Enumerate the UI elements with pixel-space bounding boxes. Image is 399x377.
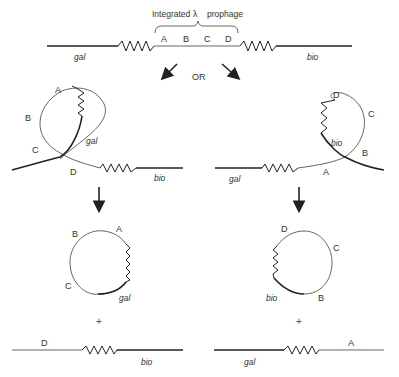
att-left-zigzag bbox=[118, 41, 154, 51]
left-loop-intermediate: A B C D gal bio bbox=[12, 85, 183, 183]
right-loop-b: B bbox=[362, 148, 368, 158]
left-plus: + bbox=[96, 316, 102, 327]
left-loop-d: D bbox=[70, 167, 77, 177]
site-c-label: C bbox=[204, 34, 211, 44]
right-plus: + bbox=[296, 316, 302, 327]
left-circle-gal-label: gal bbox=[119, 293, 131, 303]
left-loop-zigzag-d bbox=[100, 164, 136, 172]
left-linear-d: D bbox=[41, 338, 48, 348]
site-d-label: D bbox=[225, 34, 232, 44]
left-circle-phage bbox=[70, 231, 126, 294]
right-linear-gal-label: gal bbox=[244, 357, 256, 367]
right-circle-zigzag bbox=[273, 246, 278, 278]
left-loop-zigzag-a bbox=[72, 86, 84, 116]
lambda-symbol: λ bbox=[193, 9, 198, 19]
right-loop-zigzag-a bbox=[262, 164, 298, 172]
left-linear-product: D bio bbox=[12, 338, 183, 367]
right-circle: D C B bio bbox=[266, 224, 340, 303]
att-right-zigzag bbox=[240, 41, 276, 51]
bio-label: bio bbox=[307, 52, 319, 62]
right-linear-zigzag bbox=[284, 346, 319, 354]
right-circle-b: B bbox=[318, 293, 324, 303]
site-a-label: A bbox=[161, 34, 167, 44]
gal-label: gal bbox=[74, 52, 86, 62]
integrated-prophage: Integrated λ prophage A B C D gal bio OR bbox=[47, 9, 352, 82]
right-loop-a: A bbox=[323, 167, 329, 177]
right-loop-zigzag-d bbox=[321, 100, 335, 133]
right-linear-product: A gal bbox=[214, 338, 384, 367]
left-circle-zigzag bbox=[126, 244, 130, 282]
right-circle-c: C bbox=[333, 243, 340, 253]
left-circle-b: B bbox=[72, 229, 78, 239]
right-circle-phage bbox=[277, 231, 332, 294]
left-circle-a: A bbox=[116, 224, 122, 234]
right-linear-a: A bbox=[348, 338, 354, 348]
left-loop-phage bbox=[40, 88, 105, 168]
title-text: Integrated bbox=[152, 9, 191, 19]
left-linear-zigzag bbox=[82, 346, 117, 354]
excision-diagram: Integrated λ prophage A B C D gal bio OR… bbox=[0, 0, 399, 377]
left-loop-gal-label: gal bbox=[86, 136, 98, 146]
arrow-right-icon bbox=[222, 64, 238, 78]
left-circle: A B C gal bbox=[65, 224, 131, 303]
site-b-label: B bbox=[183, 34, 189, 44]
left-loop-a: A bbox=[55, 85, 61, 95]
right-loop-d: D bbox=[333, 90, 340, 100]
right-loop-bio-label: bio bbox=[331, 138, 343, 148]
right-circle-bio-label: bio bbox=[266, 293, 278, 303]
arrow-left-icon bbox=[163, 64, 177, 78]
left-loop-c: C bbox=[32, 145, 39, 155]
left-circle-c: C bbox=[65, 281, 72, 291]
right-circle-d: D bbox=[281, 224, 288, 234]
left-linear-bio-label: bio bbox=[141, 357, 153, 367]
title-suffix: prophage bbox=[207, 9, 243, 19]
right-loop-gal-label: gal bbox=[229, 174, 241, 184]
right-loop-c: C bbox=[368, 109, 375, 119]
brace bbox=[155, 21, 238, 33]
left-loop-b: B bbox=[25, 113, 31, 123]
right-loop-intermediate: D C B A bio gal bbox=[215, 90, 384, 184]
right-loop-phage bbox=[298, 93, 365, 168]
left-loop-bio-label: bio bbox=[154, 173, 166, 183]
right-circle-bio bbox=[274, 278, 304, 294]
or-label: OR bbox=[192, 72, 206, 82]
